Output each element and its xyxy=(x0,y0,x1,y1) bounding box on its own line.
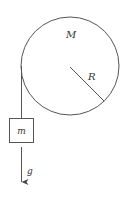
radius-line xyxy=(70,67,104,101)
pulley-diagram: M R m g xyxy=(0,0,122,200)
hanging-mass-label: m xyxy=(17,126,26,136)
gravity-label: g xyxy=(27,166,33,176)
pulley-mass-label: M xyxy=(65,29,77,40)
radius-label: R xyxy=(87,71,96,82)
